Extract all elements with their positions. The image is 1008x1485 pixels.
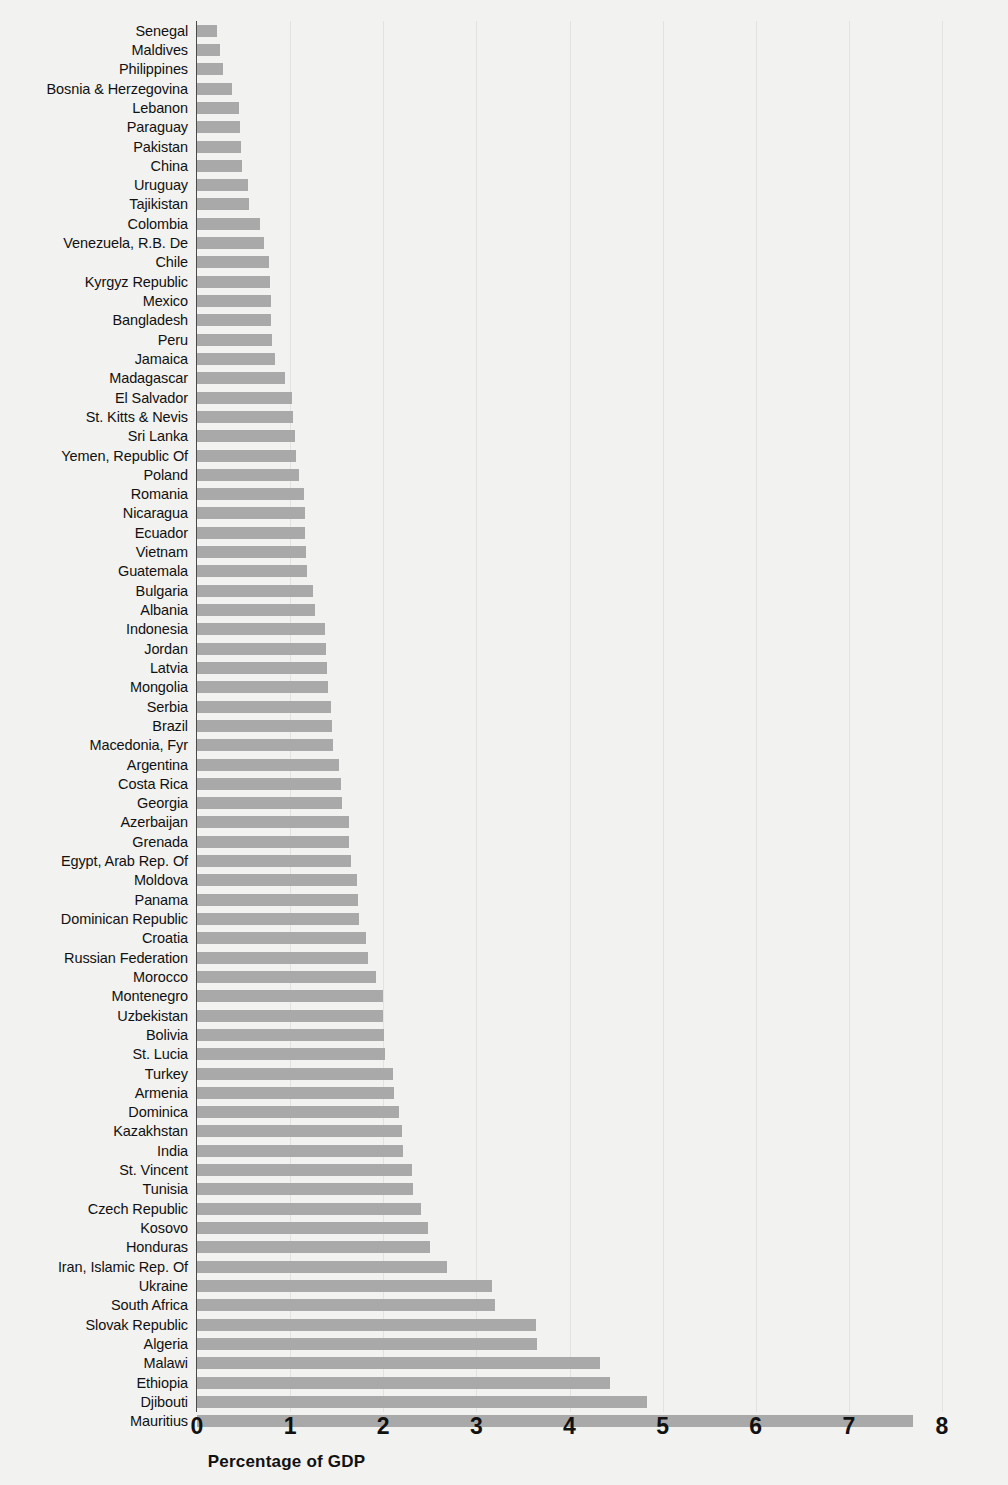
- bar-track: [197, 681, 328, 693]
- bar-track: [197, 1048, 385, 1060]
- bar: [197, 990, 383, 1002]
- bar-category-label: Uzbekistan: [117, 1008, 188, 1023]
- bar-row: Malawi: [0, 1354, 1008, 1373]
- bar-track: [197, 1068, 393, 1080]
- bar: [197, 1377, 610, 1389]
- bar-category-label: Slovak Republic: [86, 1317, 188, 1332]
- bar-track: [197, 256, 269, 268]
- bar-category-label: Dominica: [128, 1105, 188, 1120]
- bar-track: [197, 218, 260, 230]
- bar-category-label: Philippines: [119, 62, 188, 77]
- bar-row: Bolivia: [0, 1025, 1008, 1044]
- bar: [197, 1299, 495, 1311]
- bar-row: Dominica: [0, 1103, 1008, 1122]
- bar-track: [197, 1125, 402, 1137]
- bar: [197, 160, 242, 172]
- bar-row: Kazakhstan: [0, 1122, 1008, 1141]
- bar-category-label: Russian Federation: [64, 950, 188, 965]
- bar-row: Egypt, Arab Rep. Of: [0, 851, 1008, 870]
- bar-category-label: South Africa: [111, 1298, 188, 1313]
- bar-track: [197, 430, 295, 442]
- bar-category-label: Chile: [155, 255, 188, 270]
- bar: [197, 855, 351, 867]
- bar-row: Chile: [0, 253, 1008, 272]
- x-tick-label: 8: [936, 1415, 949, 1438]
- bar-row: Turkey: [0, 1064, 1008, 1083]
- bar-row: Paraguay: [0, 118, 1008, 137]
- bar-category-label: Moldova: [134, 873, 188, 888]
- bar-row: Croatia: [0, 929, 1008, 948]
- bar-track: [197, 1183, 413, 1195]
- bar-category-label: St. Kitts & Nevis: [86, 410, 188, 425]
- bar-category-label: Lebanon: [132, 101, 188, 116]
- bar-category-label: Uruguay: [134, 178, 188, 193]
- bar: [197, 1125, 402, 1137]
- x-tick-label: 1: [284, 1415, 297, 1438]
- bar: [197, 971, 376, 983]
- bar-track: [197, 585, 313, 597]
- bar-track: [197, 102, 239, 114]
- bar-row: Indonesia: [0, 620, 1008, 639]
- bar-category-label: Turkey: [145, 1066, 188, 1081]
- bar-category-label: Latvia: [150, 661, 188, 676]
- bar-category-label: Madagascar: [109, 371, 188, 386]
- bar-category-label: Morocco: [133, 970, 188, 985]
- bar-row: Nicaragua: [0, 504, 1008, 523]
- bar-row: Guatemala: [0, 562, 1008, 581]
- bar-track: [197, 932, 366, 944]
- bar: [197, 179, 248, 191]
- bar-row: Honduras: [0, 1238, 1008, 1257]
- bar-row: Brazil: [0, 716, 1008, 735]
- bar: [197, 913, 359, 925]
- bar-track: [197, 1261, 447, 1273]
- bar: [197, 1357, 600, 1369]
- bar-track: [197, 392, 292, 404]
- x-tick-label: 2: [377, 1415, 390, 1438]
- bar-track: [197, 198, 249, 210]
- bar-track: [197, 565, 307, 577]
- bar-category-label: Azerbaijan: [120, 815, 188, 830]
- x-axis-tick-labels: 012345678: [0, 1415, 1008, 1445]
- bar: [197, 623, 325, 635]
- bar-track: [197, 44, 220, 56]
- bar-row: Colombia: [0, 214, 1008, 233]
- bar-category-label: Kosovo: [140, 1221, 188, 1236]
- bar-row: Bulgaria: [0, 581, 1008, 600]
- bar: [197, 662, 327, 674]
- bar-row: China: [0, 156, 1008, 175]
- bar-category-label: Brazil: [152, 719, 188, 734]
- bar: [197, 546, 306, 558]
- bar-category-label: Pakistan: [133, 139, 188, 154]
- bar-row: Algeria: [0, 1334, 1008, 1353]
- bar-row: El Salvador: [0, 388, 1008, 407]
- bar-track: [197, 913, 359, 925]
- bar-row: St. Vincent: [0, 1160, 1008, 1179]
- bar-row: South Africa: [0, 1296, 1008, 1315]
- bar: [197, 952, 368, 964]
- bar: [197, 121, 240, 133]
- bar-track: [197, 1396, 647, 1408]
- bar: [197, 778, 341, 790]
- bar-track: [197, 372, 285, 384]
- x-axis-title-text: Percentage of GDP: [208, 1452, 365, 1472]
- bar-row: Venezuela, R.B. De: [0, 233, 1008, 252]
- bar: [197, 1261, 447, 1273]
- bar: [197, 1164, 412, 1176]
- bar-category-label: Tajikistan: [129, 197, 188, 212]
- x-tick-label: 5: [656, 1415, 669, 1438]
- bar: [197, 1145, 403, 1157]
- bar-track: [197, 604, 315, 616]
- bar-row: Tajikistan: [0, 195, 1008, 214]
- bar: [197, 1183, 413, 1195]
- bar-category-label: Venezuela, R.B. De: [63, 236, 188, 251]
- bar-category-label: Mongolia: [130, 680, 188, 695]
- x-tick-label: 0: [191, 1415, 204, 1438]
- bar: [197, 63, 223, 75]
- bar-row: Ecuador: [0, 523, 1008, 542]
- bar-row: Kyrgyz Republic: [0, 272, 1008, 291]
- bar-track: [197, 836, 349, 848]
- bar-row: Macedonia, Fyr: [0, 736, 1008, 755]
- bar-row: Panama: [0, 890, 1008, 909]
- bar-row: Jordan: [0, 639, 1008, 658]
- bar-category-label: El Salvador: [115, 390, 188, 405]
